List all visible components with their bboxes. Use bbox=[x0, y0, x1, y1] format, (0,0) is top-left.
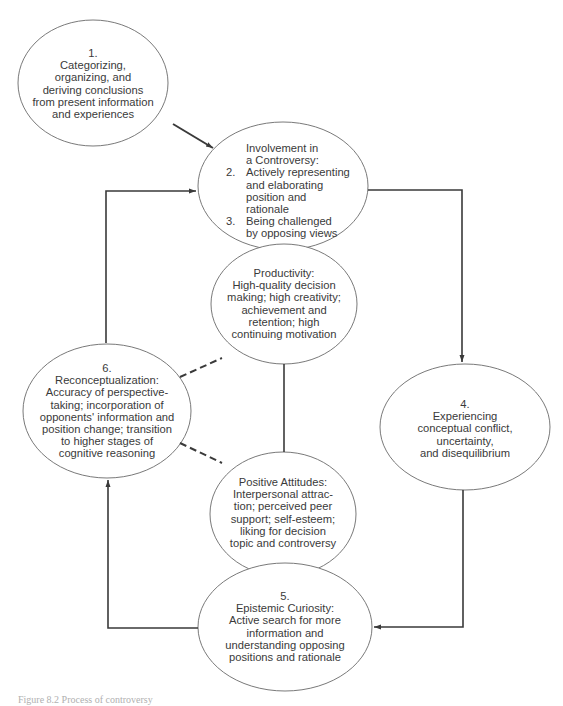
item-2-line: and elaborating bbox=[246, 179, 323, 191]
node-6-line: Reconceptualization: bbox=[23, 374, 191, 386]
arrow-6-to-involvement bbox=[106, 191, 196, 343]
arrow-involvement-to-4 bbox=[368, 190, 462, 362]
item-2-line: position and bbox=[246, 191, 306, 203]
node-6-line: Accuracy of perspective- bbox=[23, 386, 191, 398]
node-6-line: to higher stages of bbox=[23, 435, 191, 447]
node-6-line: opponents' information and bbox=[23, 411, 191, 423]
node-1-line: from present information bbox=[18, 96, 168, 108]
node-5-line: information and bbox=[198, 627, 372, 639]
involvement-heading: Involvement in bbox=[246, 142, 318, 154]
node-5-line: understanding opposing bbox=[198, 639, 372, 651]
productivity-line: retention; high bbox=[211, 316, 357, 328]
attitudes-line: Interpersonal attrac- bbox=[210, 488, 356, 500]
attitudes-line: support; self-esteem; bbox=[210, 513, 356, 525]
node-5-line: 5. bbox=[198, 590, 372, 602]
item-3-line: Being challenged bbox=[246, 215, 332, 227]
node-6-line: taking; incorporation of bbox=[23, 399, 191, 411]
attitudes-line: topic and controversy bbox=[210, 537, 356, 549]
node-6-line: 6. bbox=[23, 362, 191, 374]
node-5-line: Epistemic Curiosity: bbox=[198, 602, 372, 614]
productivity-line: continuing motivation bbox=[211, 328, 357, 340]
node-1-line: deriving conclusions bbox=[18, 84, 168, 96]
arrow-5-to-6 bbox=[108, 480, 198, 628]
node-attitudes-text: Positive Attitudes: Interpersonal attrac… bbox=[210, 476, 356, 549]
item-number: 2. bbox=[226, 166, 246, 178]
node-1-text: 1. Categorizing, organizing, and derivin… bbox=[18, 47, 168, 120]
node-4-line: and disequilibrium bbox=[380, 447, 550, 459]
node-5-line: positions and rationale bbox=[198, 651, 372, 663]
node-1-line: Categorizing, bbox=[18, 59, 168, 71]
node-4-line: 4. bbox=[380, 398, 550, 410]
node-1-line: organizing, and bbox=[18, 71, 168, 83]
attitudes-line: liking for decision bbox=[210, 525, 356, 537]
productivity-line: Productivity: bbox=[211, 267, 357, 279]
node-involvement-text: Involvement in a Controversy: 2.Actively… bbox=[226, 142, 350, 240]
involvement-heading: a Controversy: bbox=[246, 154, 319, 166]
item-3-line: by opposing views bbox=[246, 227, 337, 239]
node-1-line: and experiences bbox=[18, 108, 168, 120]
node-4-line: uncertainty, bbox=[380, 435, 550, 447]
node-6-text: 6. Reconceptualization: Accuracy of pers… bbox=[23, 362, 191, 460]
attitudes-line: tion; perceived peer bbox=[210, 500, 356, 512]
productivity-line: making; high creativity; bbox=[211, 291, 357, 303]
figure-caption: Figure 8.2 Process of controversy bbox=[18, 694, 153, 705]
node-5-text: 5. Epistemic Curiosity: Active search fo… bbox=[198, 590, 372, 663]
productivity-line: achievement and bbox=[211, 304, 357, 316]
node-4-line: conceptual conflict, bbox=[380, 422, 550, 434]
arrow-1-to-involvement bbox=[173, 124, 213, 148]
node-4-text: 4. Experiencing conceptual conflict, unc… bbox=[380, 398, 550, 459]
node-productivity-text: Productivity: High-quality decision maki… bbox=[211, 267, 357, 340]
item-number: 3. bbox=[226, 215, 246, 227]
node-5-line: Active search for more bbox=[198, 614, 372, 626]
item-2-line: Actively representing bbox=[246, 166, 350, 178]
node-4-line: Experiencing bbox=[380, 410, 550, 422]
node-6-line: cognitive reasoning bbox=[23, 447, 191, 459]
attitudes-line: Positive Attitudes: bbox=[210, 476, 356, 488]
productivity-line: High-quality decision bbox=[211, 279, 357, 291]
item-2-line: rationale bbox=[246, 203, 289, 215]
arrow-4-to-5 bbox=[374, 490, 463, 627]
node-6-line: position change; transition bbox=[23, 423, 191, 435]
node-1-line: 1. bbox=[18, 47, 168, 59]
